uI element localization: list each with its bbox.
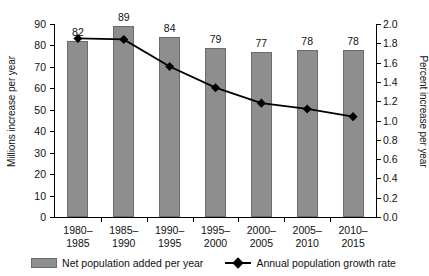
- x-category-label: 2010–2015: [325, 224, 381, 250]
- y-tick-label-left: 40: [16, 125, 46, 137]
- y-tick-label-right: 0.4: [383, 172, 413, 184]
- y-tick-label-right: 1.6: [383, 57, 413, 69]
- bar-swatch-icon: [31, 258, 57, 268]
- y-tick-label-left: 90: [16, 18, 46, 30]
- y-tick-mark-right: [377, 159, 381, 160]
- y-tick-mark-left: [50, 110, 54, 111]
- bar: [343, 50, 364, 217]
- y-tick-mark-left: [50, 217, 54, 218]
- y-axis-left-ticks: 0102030405060708090: [14, 0, 46, 276]
- bar: [251, 52, 272, 217]
- y-tick-mark-left: [50, 67, 54, 68]
- x-tick-mark: [101, 218, 102, 222]
- y-tick-label-left: 0: [16, 211, 46, 223]
- y-tick-mark-right: [377, 101, 381, 102]
- y-tick-mark-right: [377, 43, 381, 44]
- y-tick-mark-right: [377, 140, 381, 141]
- y-tick-label-left: 30: [16, 147, 46, 159]
- y-tick-mark-right: [377, 24, 381, 25]
- bar: [159, 37, 180, 217]
- y-tick-mark-left: [50, 88, 54, 89]
- bar-value-label: 79: [193, 33, 239, 45]
- bar: [67, 41, 88, 217]
- y-tick-mark-left: [50, 153, 54, 154]
- x-tick-mark: [238, 218, 239, 222]
- y-tick-label-right: 0.2: [383, 192, 413, 204]
- legend-item-line: Annual population growth rate: [225, 257, 396, 269]
- y-tick-mark-right: [377, 178, 381, 179]
- bar-value-label: 82: [55, 26, 101, 38]
- y-tick-label-left: 80: [16, 39, 46, 51]
- y-tick-mark-left: [50, 174, 54, 175]
- bar-value-label: 89: [101, 11, 147, 23]
- y-axis-right-title: Percent increase per year: [418, 17, 429, 207]
- y-axis-right-ticks: 0.00.20.40.60.81.01.21.41.61.82.0: [383, 0, 413, 276]
- bar: [297, 50, 318, 217]
- y-tick-mark-left: [50, 131, 54, 132]
- x-tick-mark: [147, 218, 148, 222]
- y-tick-mark-left: [50, 45, 54, 46]
- x-tick-mark: [330, 218, 331, 222]
- y-tick-label-right: 0.8: [383, 134, 413, 146]
- y-tick-label-left: 70: [16, 61, 46, 73]
- bar-value-label: 78: [284, 35, 330, 47]
- x-tick-mark: [284, 218, 285, 222]
- line-marker-icon: [225, 258, 251, 268]
- y-tick-mark-right: [377, 82, 381, 83]
- bar-value-label: 77: [238, 37, 284, 49]
- y-tick-label-left: 50: [16, 104, 46, 116]
- y-tick-mark-left: [50, 24, 54, 25]
- y-tick-mark-left: [50, 196, 54, 197]
- y-tick-label-right: 0.0: [383, 211, 413, 223]
- bar: [113, 26, 134, 217]
- chart-legend: Net population added per year Annual pop…: [0, 253, 427, 273]
- y-tick-label-right: 1.8: [383, 37, 413, 49]
- y-tick-label-right: 2.0: [383, 18, 413, 30]
- y-tick-label-left: 20: [16, 168, 46, 180]
- y-tick-label-right: 1.0: [383, 115, 413, 127]
- y-tick-mark-right: [377, 63, 381, 64]
- y-tick-label-right: 1.4: [383, 76, 413, 88]
- legend-line-label: Annual population growth rate: [256, 257, 396, 269]
- y-tick-label-left: 60: [16, 82, 46, 94]
- bar: [205, 48, 226, 217]
- y-tick-mark-right: [377, 121, 381, 122]
- legend-item-bar: Net population added per year: [31, 257, 203, 269]
- y-tick-mark-right: [377, 198, 381, 199]
- y-tick-mark-right: [377, 217, 381, 218]
- y-tick-label-right: 0.6: [383, 153, 413, 165]
- y-tick-label-left: 10: [16, 190, 46, 202]
- plot-area: [55, 24, 376, 217]
- legend-bar-label: Net population added per year: [62, 257, 203, 269]
- bar-value-label: 78: [330, 35, 376, 47]
- x-axis-line: [55, 217, 377, 218]
- bar-value-label: 84: [147, 22, 193, 34]
- y-tick-label-right: 1.2: [383, 95, 413, 107]
- x-tick-mark: [193, 218, 194, 222]
